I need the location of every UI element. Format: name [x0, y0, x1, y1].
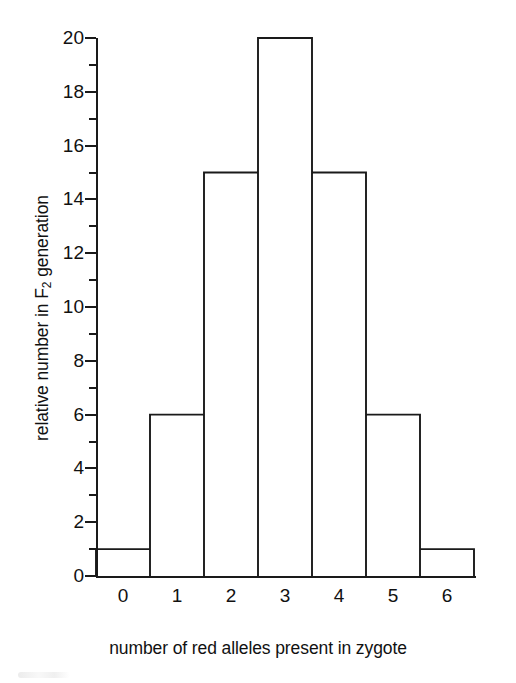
- x-axis-tick-label: 1: [162, 586, 192, 605]
- y-axis-tick-minor: [89, 387, 96, 389]
- histogram-outline: [96, 38, 474, 576]
- y-axis-tick-label: 6: [38, 405, 84, 424]
- y-axis-tick-minor: [89, 494, 96, 496]
- y-axis-tick-label: 4: [38, 458, 84, 477]
- y-axis-tick-label: 0: [38, 566, 84, 585]
- x-axis-tick-label: 0: [108, 586, 138, 605]
- y-axis-tick-minor: [89, 64, 96, 66]
- y-axis-tick-label: 16: [38, 136, 84, 155]
- y-axis-tick-major: [85, 360, 96, 362]
- y-axis-tick-minor: [89, 118, 96, 120]
- y-axis-tick-minor: [89, 172, 96, 174]
- y-axis-tick-major: [85, 414, 96, 416]
- x-axis-tick-label: 4: [324, 586, 354, 605]
- y-axis-tick-minor: [89, 441, 96, 443]
- x-axis-tick-label: 3: [270, 586, 300, 605]
- y-axis-tick-major: [85, 91, 96, 93]
- y-axis-tick-major: [85, 467, 96, 469]
- y-axis-tick-minor: [89, 333, 96, 335]
- plot-area: [96, 38, 476, 578]
- x-axis-tick-label: 2: [216, 586, 246, 605]
- y-axis-tick-minor: [89, 225, 96, 227]
- x-axis-tick-labels: 0123456: [96, 586, 476, 612]
- y-axis-tick-label: 18: [38, 82, 84, 101]
- y-axis-tick-major: [85, 252, 96, 254]
- y-axis-tick-major: [85, 306, 96, 308]
- y-axis-tick-major: [85, 37, 96, 39]
- y-axis-tick-label: 8: [38, 351, 84, 370]
- y-axis-tick-major: [85, 198, 96, 200]
- y-axis-tick-label: 12: [38, 243, 84, 262]
- y-axis-tick-labels: 02468101214161820: [38, 38, 84, 578]
- histogram-bars: [96, 38, 476, 578]
- y-axis-tick-minor: [89, 548, 96, 550]
- y-axis-tick-major: [85, 145, 96, 147]
- x-axis-tick-label: 6: [432, 586, 462, 605]
- y-axis-tick-minor: [89, 279, 96, 281]
- y-axis-tick-label: 2: [38, 512, 84, 531]
- histogram-figure: relative number in F2 generation 0246810…: [0, 0, 516, 683]
- x-axis-title: number of red alleles present in zygote: [0, 638, 516, 659]
- y-axis-tick-major: [85, 575, 96, 577]
- y-axis-tick-label: 10: [38, 297, 84, 316]
- x-axis-tick-label: 5: [378, 586, 408, 605]
- y-axis-tick-label: 20: [38, 28, 84, 47]
- scan-artifact: [18, 672, 70, 678]
- y-axis-tick-label: 14: [38, 189, 84, 208]
- y-axis-tick-major: [85, 521, 96, 523]
